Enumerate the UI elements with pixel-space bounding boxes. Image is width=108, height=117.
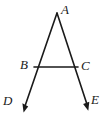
vertex-label-e: E bbox=[91, 93, 99, 106]
vertex-label-c: C bbox=[81, 59, 90, 72]
vertex-label-d: D bbox=[3, 94, 12, 107]
ray-a-to-d-line bbox=[25, 13, 57, 106]
vertex-label-a: A bbox=[61, 3, 69, 16]
arrowhead-e-icon bbox=[83, 102, 89, 111]
vertex-label-b: B bbox=[20, 58, 28, 71]
geometry-figure: A B C D E bbox=[0, 0, 108, 117]
